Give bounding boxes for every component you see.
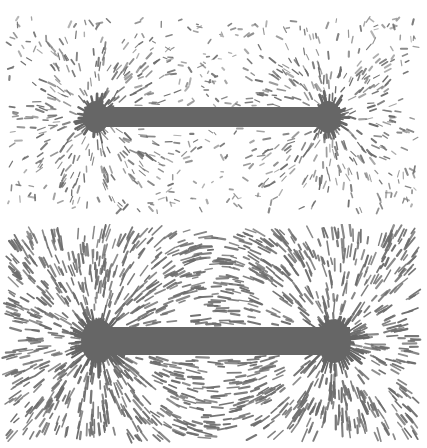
- iron-filings-field-lines-image: [0, 224, 427, 448]
- bar-magnet: [86, 327, 350, 355]
- iron-filings-scattered-image: [0, 0, 427, 224]
- magnet-panel-scattered-filings: [0, 0, 427, 224]
- bar-magnet: [86, 107, 340, 127]
- magnet-panel-aligned-filings: [0, 224, 427, 448]
